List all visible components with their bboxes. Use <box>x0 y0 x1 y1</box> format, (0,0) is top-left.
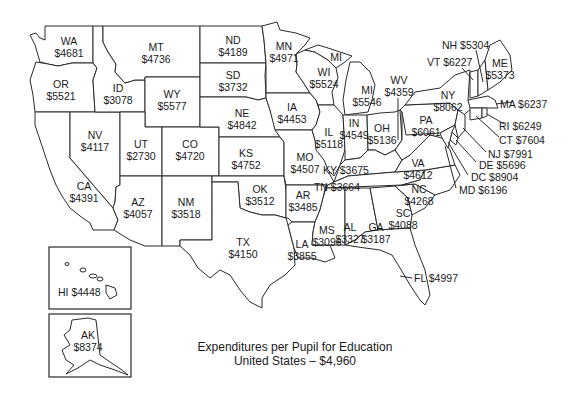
label-tx: TX$4150 <box>228 236 257 260</box>
label-ne: NE$4842 <box>227 107 256 131</box>
leader-nj <box>463 128 486 152</box>
label-nv: NV$4117 <box>81 129 109 153</box>
label-sc: SC$4088 <box>388 207 417 231</box>
leader-de <box>456 140 476 162</box>
label-mi: MI$5546 <box>352 84 381 108</box>
map-title-line1: Expenditures per Pupil for Education <box>170 340 420 354</box>
label-oh: OH$5136 <box>367 122 396 146</box>
label-id: ID$3078 <box>103 82 132 106</box>
label-ri: RI $6249 <box>499 120 542 132</box>
map-title-line2: United States – $4,960 <box>170 354 420 368</box>
label-ks: KS$4752 <box>231 147 260 171</box>
label-va: VA$4612 <box>403 157 432 181</box>
label-mi-up: MI <box>330 51 342 63</box>
label-ga: GA$3187 <box>361 221 390 245</box>
label-wy: WY$5577 <box>157 88 186 112</box>
label-co: CO$4720 <box>175 138 204 162</box>
label-al: AL$3327 <box>335 221 364 245</box>
label-in: IN$4549 <box>339 117 368 141</box>
label-ct: CT $7604 <box>499 134 545 146</box>
state-ri <box>482 108 487 118</box>
label-nd: ND$4189 <box>218 34 247 58</box>
label-or: OR$5521 <box>46 78 75 102</box>
label-ia: IA$4453 <box>277 101 306 125</box>
label-dc: DC $8904 <box>471 171 518 183</box>
label-wi: WI$5524 <box>309 66 338 90</box>
label-nc: NC$4268 <box>404 183 433 207</box>
label-de: DE $5696 <box>479 159 526 171</box>
state-vt <box>470 70 478 98</box>
label-ny: NY$8062 <box>433 89 462 113</box>
label-tn: TN $3664 <box>314 181 360 193</box>
label-mo: MO$4507 <box>290 151 319 175</box>
label-ca: CA$4391 <box>69 180 98 204</box>
state-ct <box>470 108 482 120</box>
label-nm: NM$3518 <box>171 196 200 220</box>
label-vt: VT $6227 <box>427 56 472 68</box>
label-md: MD $6196 <box>459 184 507 196</box>
label-me: ME$5373 <box>485 57 514 81</box>
label-ak: AK$8374 <box>73 329 102 353</box>
label-fl: FL $4997 <box>414 272 458 284</box>
label-nh: NH $5304 <box>442 39 489 51</box>
label-hi: HI $4448 <box>58 286 101 298</box>
label-mt: MT$4736 <box>141 41 170 65</box>
label-ky: KY $3675 <box>323 164 369 176</box>
label-ok: OK$3512 <box>245 183 274 207</box>
label-az: AZ$4057 <box>123 196 152 220</box>
map-title: Expenditures per Pupil for Education Uni… <box>170 340 420 368</box>
label-ma: MA $6237 <box>500 98 547 110</box>
label-wv: WV$4359 <box>384 74 413 98</box>
label-ut: UT$2730 <box>126 138 155 162</box>
label-wa: WA$4681 <box>54 35 83 59</box>
label-mn: MN$4971 <box>269 40 298 64</box>
label-sd: SD$3732 <box>218 69 247 93</box>
label-pa: PA$6061 <box>411 114 440 138</box>
